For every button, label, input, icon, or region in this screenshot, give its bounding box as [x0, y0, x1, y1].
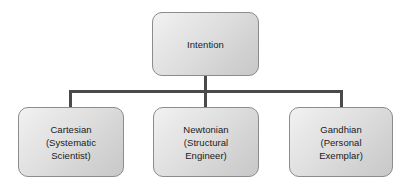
node-newtonian: Newtonian (Structural Engineer) — [153, 107, 259, 177]
node-cartesian-label: Cartesian (Systematic Scientist) — [42, 123, 100, 162]
node-cartesian: Cartesian (Systematic Scientist) — [18, 107, 124, 177]
node-intention-label: Intention — [183, 38, 228, 51]
node-intention: Intention — [152, 12, 259, 76]
node-gandhian: Gandhian (Personal Exemplar) — [289, 107, 393, 177]
hierarchy-diagram: Intention Cartesian (Systematic Scientis… — [0, 0, 410, 188]
node-gandhian-label: Gandhian (Personal Exemplar) — [315, 123, 367, 162]
node-newtonian-label: Newtonian (Structural Engineer) — [179, 123, 232, 162]
